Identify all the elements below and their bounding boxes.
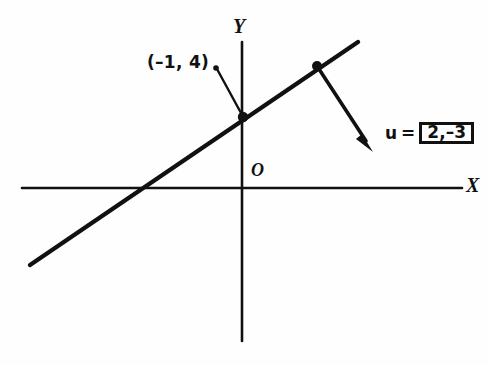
point-coordinate-label: (–1, 4): [147, 54, 209, 71]
vector-bracket-group: 2,–3: [419, 122, 474, 144]
vector-components-label: 2,–3: [426, 124, 467, 141]
vector-line-figure: Y X O (–1, 4) u = 2,–3: [0, 0, 489, 365]
leader-line-end-dot: [213, 65, 219, 71]
point-leader-line: [217, 69, 241, 113]
figure-canvas: [0, 0, 489, 365]
plotted-line: [30, 42, 358, 265]
point-marker-minus1-4: [238, 112, 248, 122]
y-axis-label: Y: [233, 16, 245, 36]
point-marker-vector-tail: [312, 61, 322, 71]
equals-sign: =: [401, 125, 415, 142]
origin-label: O: [251, 161, 264, 179]
vector-equation-label: u = 2,–3: [385, 122, 474, 144]
x-axis-label: X: [466, 175, 479, 195]
vector-u-arrow-shaft: [317, 66, 366, 141]
vector-name-label: u: [385, 125, 397, 142]
